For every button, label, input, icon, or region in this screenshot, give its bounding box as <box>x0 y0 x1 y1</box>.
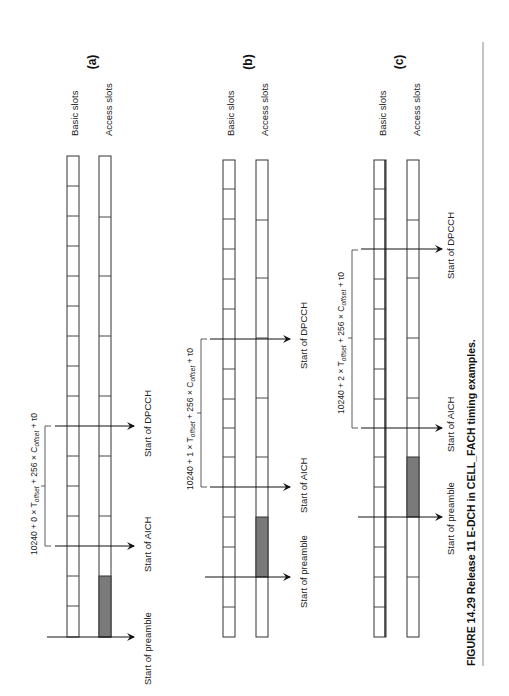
interval-bracket-b <box>201 339 207 487</box>
preamble-fill-b <box>256 517 268 577</box>
access-slots-bar-a <box>99 156 111 637</box>
interval-bracket-a <box>45 426 51 546</box>
basic-slots-label-c: Basic slots <box>377 90 388 136</box>
figure-caption: FIGURE 14.29 Release 11 E-DCH in CELL_FA… <box>465 339 477 666</box>
access-slots-label-c: Access slots <box>411 83 422 136</box>
panel-b: (b) Basic slots Access slots <box>185 54 309 637</box>
formula-a: 10240 + 0 × Toffset + 256 × Coffset + τ0 <box>29 413 40 555</box>
start-preamble-label-a: Start of preamble <box>142 612 153 685</box>
basic-slots-label-b: Basic slots <box>225 90 236 136</box>
formula-c: 10240 + 2 × Toffset + 256 × Coffset + τ0 <box>336 272 347 414</box>
start-dpcch-label-b: Start of DPCCH <box>298 302 309 369</box>
access-slots-label-b: Access slots <box>259 83 270 136</box>
preamble-fill-c <box>407 457 419 517</box>
start-dpcch-label-c: Start of DPCCH <box>445 212 456 279</box>
formula-b: 10240 + 1 × Toffset + 256 × Coffset + τ0 <box>185 348 196 490</box>
timing-diagram: (a) Basic slots Access slots <box>0 0 509 696</box>
start-aich-label-c: Start of AICH <box>445 396 456 452</box>
start-aich-label-a: Start of AICH <box>142 516 153 572</box>
panel-c: (c) Basic slots Access slots <box>336 55 456 637</box>
panel-label-a: (a) <box>85 55 99 70</box>
interval-bracket-c <box>352 250 358 428</box>
preamble-fill-a <box>99 576 111 637</box>
access-slots-bar-c <box>407 160 419 637</box>
access-slots-bar-b <box>256 160 268 637</box>
start-aich-label-b: Start of AICH <box>298 457 309 513</box>
access-slots-label-a: Access slots <box>103 83 114 136</box>
panel-label-b: (b) <box>241 54 255 69</box>
basic-slots-bar-c <box>374 160 386 637</box>
start-preamble-label-b: Start of preamble <box>298 535 309 608</box>
basic-slots-label-a: Basic slots <box>69 90 80 136</box>
basic-slots-bar-a <box>67 156 79 637</box>
start-preamble-label-c: Start of preamble <box>445 482 456 555</box>
panel-a: (a) Basic slots Access slots <box>29 55 153 685</box>
panel-label-c: (c) <box>392 55 406 70</box>
basic-slots-bar-b <box>223 160 235 637</box>
start-dpcch-label-a: Start of DPCCH <box>142 390 153 457</box>
